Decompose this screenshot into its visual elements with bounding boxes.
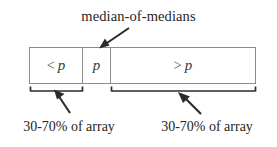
pivot-symbol-left: p [58,57,66,74]
cell-less-than-pivot: < p [30,48,83,83]
right-caption-arrow-icon [178,92,201,114]
partition-box: < p p > p [29,47,256,84]
less-than-operator-symbol: < [47,58,55,74]
right-bracket [112,87,256,92]
pivot-symbol: p [93,57,101,74]
left-bracket-caption: 30-70% of array [3,119,135,135]
page-title: median-of-medians [0,8,277,24]
right-bracket-caption: 30-70% of array [141,119,273,135]
pivot-callout-arrow-icon [99,28,129,49]
left-bracket [31,87,83,92]
greater-than-operator-symbol: > [174,58,182,74]
cell-pivot: p [83,48,111,83]
median-of-medians-diagram: median-of-medians < p p > p [0,0,277,147]
left-caption-arrow-icon [54,90,70,114]
pivot-symbol-right: p [185,57,193,74]
cell-greater-than-pivot: > p [111,48,255,83]
